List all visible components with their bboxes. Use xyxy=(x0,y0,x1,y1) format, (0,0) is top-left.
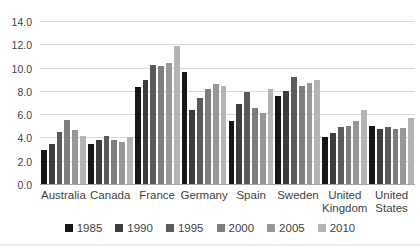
legend-swatch-icon xyxy=(115,224,123,232)
bar-1995 xyxy=(197,98,203,184)
bar-1990 xyxy=(330,133,336,184)
bar-2010 xyxy=(361,110,367,185)
bar-1990 xyxy=(377,129,383,184)
bar-group-united-states xyxy=(368,22,415,184)
bar-group-spain xyxy=(228,22,275,184)
y-tick-label: 8.0 xyxy=(0,86,32,98)
legend-swatch-icon xyxy=(65,224,73,232)
y-tick-label: 12.0 xyxy=(0,39,32,51)
x-label-australia: Australia xyxy=(40,189,87,215)
legend-item-1995: 1995 xyxy=(166,222,204,234)
bar-2000 xyxy=(158,66,164,184)
bar-group-france xyxy=(134,22,181,184)
bar-1985 xyxy=(322,137,328,184)
bar-2010 xyxy=(408,118,414,184)
legend-label: 2005 xyxy=(279,222,305,234)
bar-1990 xyxy=(143,80,149,184)
y-tick-label: 2.0 xyxy=(0,156,32,168)
bar-1985 xyxy=(182,72,188,184)
legend-swatch-icon xyxy=(217,224,225,232)
bar-1985 xyxy=(41,150,47,184)
y-tick-label: 4.0 xyxy=(0,132,32,144)
bar-1995 xyxy=(244,92,250,184)
legend-item-2005: 2005 xyxy=(267,222,305,234)
bar-1995 xyxy=(385,127,391,184)
legend-label: 1995 xyxy=(178,222,204,234)
legend-label: 1990 xyxy=(127,222,153,234)
legend-swatch-icon xyxy=(318,224,326,232)
bar-2005 xyxy=(307,83,313,184)
bar-2005 xyxy=(213,84,219,184)
x-axis-line xyxy=(40,184,415,185)
bar-2000 xyxy=(346,126,352,184)
bar-2010 xyxy=(314,80,320,184)
bottom-divider xyxy=(0,244,420,246)
bar-group-united-kingdom xyxy=(321,22,368,184)
bar-2000 xyxy=(205,89,211,185)
x-label-canada: Canada xyxy=(87,189,134,215)
x-label-france: France xyxy=(134,189,181,215)
y-tick-label: 14.0 xyxy=(0,16,32,28)
bar-1990 xyxy=(189,110,195,185)
bar-2010 xyxy=(174,46,180,185)
bar-group-canada xyxy=(87,22,134,184)
bar-2000 xyxy=(393,129,399,184)
x-label-spain: Spain xyxy=(228,189,275,215)
bar-2005 xyxy=(353,121,359,184)
bar-2000 xyxy=(111,140,117,184)
bar-2005 xyxy=(166,63,172,184)
bar-2005 xyxy=(72,130,78,184)
legend-label: 1985 xyxy=(77,222,103,234)
bar-group-australia xyxy=(40,22,87,184)
grouped-bar-chart-figure: 0.02.04.06.08.010.012.014.0 AustraliaCan… xyxy=(0,0,420,248)
y-tick-label: 0.0 xyxy=(0,179,32,191)
bar-1995 xyxy=(104,136,110,184)
bar-1985 xyxy=(229,121,235,184)
bar-2005 xyxy=(119,142,125,184)
x-label-germany: Germany xyxy=(180,189,227,215)
x-axis-labels: AustraliaCanadaFranceGermanySpainSwedenU… xyxy=(40,189,415,215)
bar-1995 xyxy=(338,127,344,184)
legend: 198519901995200020052010 xyxy=(0,222,420,234)
legend-item-1990: 1990 xyxy=(115,222,153,234)
legend-label: 2000 xyxy=(229,222,255,234)
x-label-united-kingdom: United Kingdom xyxy=(321,189,368,215)
legend-swatch-icon xyxy=(166,224,174,232)
bar-2005 xyxy=(400,128,406,184)
x-label-sweden: Sweden xyxy=(275,189,322,215)
legend-label: 2010 xyxy=(330,222,356,234)
bar-group-sweden xyxy=(274,22,321,184)
bar-group-germany xyxy=(181,22,228,184)
bar-1990 xyxy=(283,91,289,184)
bar-2005 xyxy=(260,113,266,184)
bar-2010 xyxy=(80,136,86,184)
bar-1990 xyxy=(49,144,55,184)
bar-1990 xyxy=(96,140,102,184)
legend-item-2010: 2010 xyxy=(318,222,356,234)
bar-1985 xyxy=(135,87,141,184)
bar-1985 xyxy=(275,96,281,185)
legend-item-2000: 2000 xyxy=(217,222,255,234)
y-tick-label: 10.0 xyxy=(0,63,32,75)
legend-item-1985: 1985 xyxy=(65,222,103,234)
bar-1995 xyxy=(291,77,297,184)
bar-2010 xyxy=(268,89,274,185)
bar-groups xyxy=(40,22,415,184)
bar-1985 xyxy=(88,144,94,184)
bar-1990 xyxy=(236,104,242,184)
bar-2000 xyxy=(64,120,70,184)
y-axis: 0.02.04.06.08.010.012.014.0 xyxy=(0,22,34,185)
plot-area xyxy=(40,22,415,185)
bar-1995 xyxy=(57,132,63,184)
y-tick-label: 6.0 xyxy=(0,109,32,121)
bar-2010 xyxy=(127,137,133,184)
legend-swatch-icon xyxy=(267,224,275,232)
bar-2010 xyxy=(221,86,227,184)
x-label-united-states: United States xyxy=(368,189,415,215)
bar-1985 xyxy=(369,126,375,184)
bar-2000 xyxy=(252,108,258,184)
bar-1995 xyxy=(150,65,156,184)
bar-2000 xyxy=(299,86,305,184)
